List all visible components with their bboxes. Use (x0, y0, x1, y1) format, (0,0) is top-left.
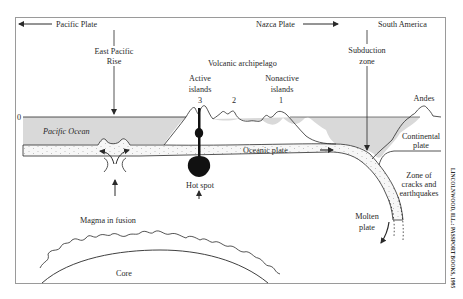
volcanic-archipelago-label: Volcanic archipelago (208, 59, 277, 68)
rise-upwelling-right (122, 158, 126, 172)
oceanic-plate (23, 139, 403, 220)
continental-plate-label: Continental (402, 132, 441, 141)
nonactive-islands-label: Nonactive (265, 74, 299, 83)
zone-of-cracks-boundary (379, 151, 441, 165)
zone-of-cracks-label: Zone of (406, 171, 432, 180)
hot-spot (188, 156, 210, 177)
zone-of-cracks-label-2: cracks and (402, 180, 437, 189)
pacific-plate-label: Pacific Plate (56, 20, 98, 29)
volcanic-islands (164, 106, 336, 145)
magma-in-fusion-label: Magma in fusion (80, 216, 136, 225)
active-islands-label-2: islands (189, 85, 212, 94)
subduction-zone-label: Subduction (348, 46, 385, 55)
pacific-ocean-label: Pacific Ocean (42, 127, 90, 136)
andes-label: Andes (414, 94, 435, 103)
molten-plate-arrow (381, 222, 389, 243)
south-america-label: South America (378, 20, 427, 29)
rise-upwelling-left (104, 158, 108, 172)
east-pacific-rise-label: East Pacific (95, 47, 134, 56)
nazca-plate-label: Nazca Plate (256, 20, 295, 29)
subduction-zone-label-2: zone (359, 57, 375, 66)
sea-level-zero: 0 (17, 113, 21, 122)
nonactive-islands-label-2: islands (271, 85, 294, 94)
active-islands-label: Active (189, 74, 211, 83)
molten-plate-label: Molten (355, 212, 379, 221)
molten-plate-label-2: plate (359, 223, 375, 232)
core-outline (42, 250, 268, 283)
hot-spot-label: Hot spot (186, 181, 215, 190)
core-label: Core (116, 269, 132, 278)
magma-chamber (195, 128, 203, 138)
island-number-2: 2 (232, 96, 236, 105)
plate-tectonics-diagram: Pacific Plate Nazca Plate South America … (0, 0, 463, 299)
island-number-1: 1 (279, 96, 283, 105)
island-number-3: 3 (198, 96, 202, 105)
continental-plate-label-2: plate (413, 141, 429, 150)
east-pacific-rise-label-2: Rise (107, 57, 122, 66)
oceanic-plate-label: Oceanic plate (243, 146, 288, 155)
credit-line: LINCOLNWOOD, ILL.: PASSPORT BOOKS, 1995 (450, 168, 456, 288)
zone-of-cracks-label-3: earthquakes (399, 189, 438, 198)
